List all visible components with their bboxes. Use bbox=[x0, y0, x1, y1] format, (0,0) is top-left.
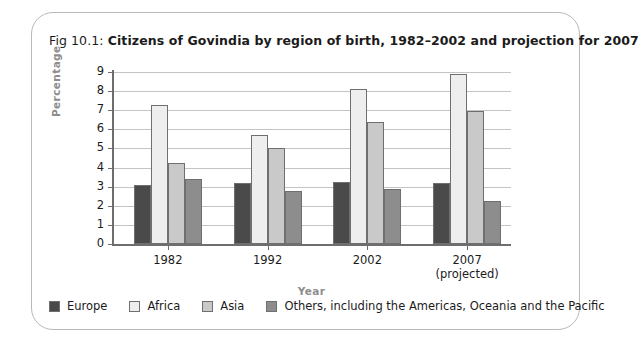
bar-1992-asia[interactable] bbox=[268, 148, 285, 244]
bar-1982-africa[interactable] bbox=[151, 105, 168, 245]
y-tick-label: 2 bbox=[97, 200, 104, 212]
y-axis-title: Percentage bbox=[50, 45, 62, 117]
legend-item-africa[interactable]: Africa bbox=[129, 299, 180, 313]
bar-2002-africa[interactable] bbox=[350, 89, 367, 244]
figure-title: Fig 10.1: Citizens of Govindia by region… bbox=[49, 33, 639, 48]
y-tick-label: 8 bbox=[97, 85, 104, 97]
y-tick-label: 1 bbox=[97, 219, 104, 231]
y-tick-label: 0 bbox=[97, 238, 104, 250]
x-axis-title: Year bbox=[112, 285, 511, 297]
bar-1992-europe[interactable] bbox=[234, 183, 251, 244]
legend-swatch-icon bbox=[202, 301, 213, 312]
bar-2007-europe[interactable] bbox=[433, 183, 450, 244]
bar-group-1982: 1982 bbox=[134, 72, 202, 244]
bar-2007-asia[interactable] bbox=[467, 111, 484, 244]
bar-2007-africa[interactable] bbox=[450, 74, 467, 244]
y-tick-label: 9 bbox=[97, 66, 104, 78]
legend-label: Europe bbox=[67, 299, 107, 313]
figure-caption: Citizens of Govindia by region of birth,… bbox=[108, 33, 639, 48]
legend-swatch-icon bbox=[49, 301, 60, 312]
x-tick-mark bbox=[367, 244, 368, 250]
bar-1982-europe[interactable] bbox=[134, 185, 151, 244]
bar-1982-asia[interactable] bbox=[168, 163, 185, 244]
x-axis-sublabel-2007: (projected) bbox=[417, 267, 517, 281]
legend-item-europe[interactable]: Europe bbox=[49, 299, 107, 313]
figure-frame: Fig 10.1: Citizens of Govindia by region… bbox=[31, 12, 580, 330]
bar-2002-others[interactable] bbox=[384, 189, 401, 244]
bar-group-2002: 2002 bbox=[333, 72, 401, 244]
bar-1982-others[interactable] bbox=[185, 179, 202, 244]
bar-2002-europe[interactable] bbox=[333, 182, 350, 244]
legend-label: Asia bbox=[220, 299, 244, 313]
bars-layer: 1982199220022007(projected) bbox=[112, 72, 511, 244]
legend-swatch-icon bbox=[129, 301, 140, 312]
x-tick-mark bbox=[168, 244, 169, 250]
x-tick-mark bbox=[268, 244, 269, 250]
bar-group-1992: 1992 bbox=[234, 72, 302, 244]
bar-2007-others[interactable] bbox=[484, 201, 501, 244]
chart-legend: EuropeAfricaAsiaOthers, including the Am… bbox=[49, 299, 605, 313]
x-axis-label-2002: 2002 bbox=[317, 253, 417, 267]
bar-1992-africa[interactable] bbox=[251, 135, 268, 244]
legend-item-others[interactable]: Others, including the Americas, Oceania … bbox=[266, 299, 604, 313]
legend-label: Africa bbox=[147, 299, 180, 313]
legend-swatch-icon bbox=[266, 301, 277, 312]
legend-label: Others, including the Americas, Oceania … bbox=[284, 299, 604, 313]
bar-group-2007: 2007(projected) bbox=[433, 72, 501, 244]
y-tick-label: 6 bbox=[97, 124, 104, 136]
x-axis-label-1982: 1982 bbox=[118, 253, 218, 267]
x-axis-line bbox=[112, 244, 511, 246]
legend-item-asia[interactable]: Asia bbox=[202, 299, 244, 313]
bar-2002-asia[interactable] bbox=[367, 122, 384, 244]
bar-1992-others[interactable] bbox=[285, 191, 302, 244]
x-axis-label-2007: 2007(projected) bbox=[417, 253, 517, 282]
y-tick-label: 4 bbox=[97, 162, 104, 174]
y-tick-label: 7 bbox=[97, 104, 104, 116]
y-tick-label: 5 bbox=[97, 143, 104, 155]
x-tick-mark bbox=[467, 244, 468, 250]
x-axis-label-1992: 1992 bbox=[218, 253, 318, 267]
y-tick-label: 3 bbox=[97, 181, 104, 193]
chart-plot-area: 0123456789 1982199220022007(projected) Y… bbox=[112, 72, 511, 244]
